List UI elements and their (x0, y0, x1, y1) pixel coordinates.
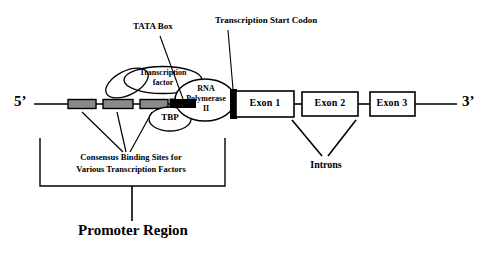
transcription-factor-label-line1: Transcription (140, 69, 187, 77)
three-prime-label: 3’ (462, 94, 475, 110)
rna-polymerase-label-line1: RNA (197, 85, 214, 93)
binding-site-box-2 (103, 100, 133, 109)
introns-pointer-right (328, 120, 356, 156)
consensus-pointer-2 (117, 112, 126, 152)
introns-pointer-left (292, 120, 322, 156)
exon-label-3: Exon 3 (377, 98, 408, 109)
transcription-start-codon-leader-line (228, 30, 233, 89)
five-prime-label: 5’ (14, 94, 27, 110)
transcription-start-codon-label: Transcription Start Codon (215, 16, 317, 25)
promoter-region-title: Promoter Region (78, 223, 188, 239)
rna-polymerase-label-line3: II (203, 105, 209, 113)
gene-structure-diagram: TATA Box Transcription Start Codon 5’ 3’… (0, 0, 494, 254)
tbp-label: TBP (161, 113, 179, 122)
rna-polymerase-label-line2: Polymerase (186, 95, 226, 103)
exon-label-1: Exon 1 (250, 98, 281, 109)
consensus-pointer-3 (130, 112, 152, 152)
consensus-pointer-1 (82, 112, 123, 152)
binding-site-box-1 (68, 100, 96, 109)
consensus-binding-sites-label-line1: Consensus Binding Sites for (80, 153, 181, 162)
consensus-binding-sites-label-line2: Various Transcription Factors (76, 165, 185, 174)
promoter-region-bracket (40, 138, 225, 186)
tata-box-label: TATA Box (133, 22, 173, 31)
diagram-vector-layer (0, 0, 494, 254)
transcription-factor-label-line2: factor (153, 79, 173, 87)
introns-label: Introns (310, 160, 342, 171)
exon-label-2: Exon 2 (315, 98, 346, 109)
